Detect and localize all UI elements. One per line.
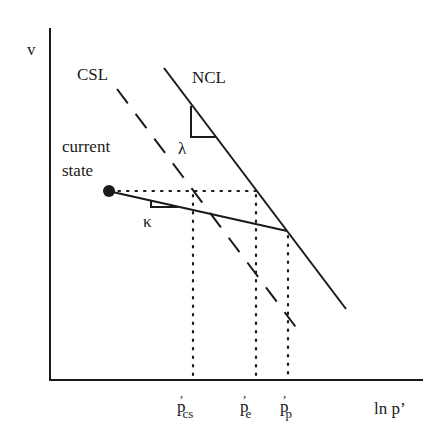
tick-label-pe: p’e bbox=[240, 393, 252, 421]
tick-label-pcs: p’cs bbox=[177, 393, 193, 421]
csl-label: CSL bbox=[77, 65, 108, 84]
lambda-label: λ bbox=[178, 139, 187, 158]
current-state-point bbox=[103, 185, 115, 197]
critical-state-diagram: v ln p’ NCL λ CSL current state κ p’cs p… bbox=[0, 0, 445, 427]
kappa-label: κ bbox=[143, 212, 152, 231]
current-state-label-line1: current bbox=[62, 137, 110, 156]
y-axis-label: v bbox=[27, 40, 36, 59]
current-state-label-line2: state bbox=[62, 161, 93, 180]
tick-label-pp: p’p bbox=[280, 393, 292, 421]
x-axis-label: ln p’ bbox=[374, 399, 406, 418]
ncl-label: NCL bbox=[192, 68, 226, 87]
